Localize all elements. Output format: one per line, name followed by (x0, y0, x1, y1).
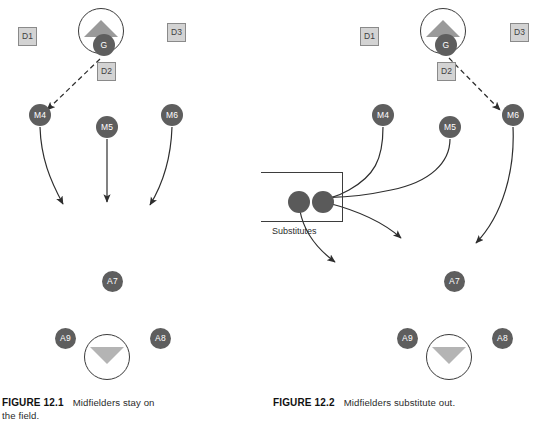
player-token-m5: M5 (96, 116, 118, 138)
player-label: A9 (60, 334, 71, 343)
figure-caption-right: FIGURE 12.2Midfielders substitute out. (271, 396, 542, 409)
figure-caption-text-line2: the field. (2, 410, 39, 421)
player-label: M5 (444, 123, 456, 132)
figure-number: FIGURE 12.1 (2, 397, 64, 408)
defender-box-d2: D2 (97, 62, 116, 81)
player-label: M6 (166, 111, 178, 120)
substitutes-box-label: Substitutes (272, 227, 317, 236)
player-token-g: G (93, 34, 115, 56)
defender-box-label: D2 (441, 67, 452, 76)
defender-box-label: D3 (514, 28, 525, 37)
figure-caption-text: Midfielders stay on (73, 397, 155, 408)
player-token-a8: A8 (492, 328, 513, 349)
player-label: A8 (155, 334, 166, 343)
field-diagram-left: D1 D2 D3 G M4 M5 M6 A7 (0, 0, 271, 395)
player-token-a7: A7 (444, 271, 465, 292)
arrows-layer-left (0, 0, 271, 395)
pass-arrow-g-to-m4 (47, 59, 100, 110)
defender-box-d3: D3 (510, 23, 529, 42)
substitute-token-2 (312, 191, 334, 213)
figure-12-1: D1 D2 D3 G M4 M5 M6 A7 (0, 0, 271, 422)
defender-box-label: D2 (101, 67, 112, 76)
run-arrow-m6 (476, 127, 513, 243)
player-label: M4 (34, 111, 46, 120)
field-diagram-right: Substitutes D1 D2 D3 (271, 0, 542, 395)
player-token-m5: M5 (439, 116, 461, 138)
player-label: A7 (449, 277, 460, 286)
player-label: A9 (402, 334, 413, 343)
player-label: A8 (497, 334, 508, 343)
player-token-a9: A9 (55, 328, 76, 349)
player-token-m6: M6 (502, 104, 524, 126)
defender-box-d2: D2 (437, 62, 456, 81)
player-label: M5 (101, 123, 113, 132)
player-token-a7: A7 (102, 271, 123, 292)
player-label: G (101, 41, 108, 50)
pass-arrow-g-to-m6 (449, 58, 500, 110)
defender-box-d1: D1 (18, 27, 37, 46)
player-label: M4 (377, 111, 389, 120)
defender-box-label: D1 (22, 32, 33, 41)
defender-box-d1: D1 (360, 27, 379, 46)
player-token-m4: M4 (372, 104, 394, 126)
player-token-m6: M6 (161, 104, 183, 126)
player-label: G (443, 41, 450, 50)
figure-12-2: Substitutes D1 D2 D3 (271, 0, 542, 422)
substitute-token-1 (288, 191, 310, 213)
bottom-goal-triangle-icon (432, 347, 466, 364)
player-token-a8: A8 (150, 328, 171, 349)
run-arrow-m6 (150, 127, 172, 205)
figure-number: FIGURE 12.2 (273, 397, 335, 408)
defender-box-label: D3 (171, 28, 182, 37)
defender-box-d3: D3 (167, 23, 186, 42)
figure-page: D1 D2 D3 G M4 M5 M6 A7 (0, 0, 543, 422)
player-token-g: G (435, 34, 457, 56)
player-token-a9: A9 (397, 328, 418, 349)
run-arrow-m4 (40, 127, 63, 204)
defender-box-label: D1 (364, 32, 375, 41)
player-token-m4: M4 (29, 104, 51, 126)
figure-caption-left: FIGURE 12.1Midfielders stay on the field… (0, 396, 271, 422)
player-label: M6 (507, 111, 519, 120)
player-label: A7 (107, 277, 118, 286)
bottom-goal-triangle-icon (90, 347, 124, 364)
figure-caption-text: Midfielders substitute out. (344, 397, 455, 408)
